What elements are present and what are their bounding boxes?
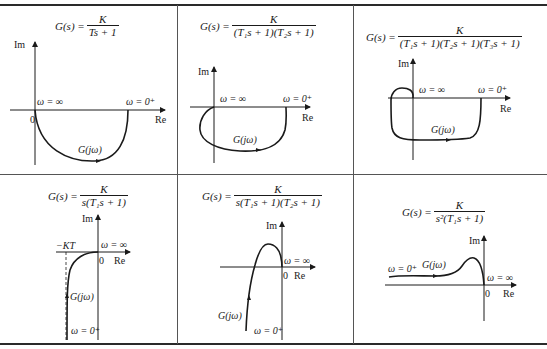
origin-label: 0	[283, 270, 288, 281]
im-label: Im	[469, 235, 480, 246]
nyquist-plot-3: Im Re ω = ∞ ω = 0⁺ G(jω)	[388, 58, 512, 160]
origin-label: 0	[485, 288, 490, 299]
re-label: Re	[302, 112, 314, 123]
im-label: Im	[398, 58, 409, 69]
omega-infinity-label: ω = ∞	[220, 93, 246, 104]
origin-label: 0	[99, 255, 104, 266]
direction-arrow-icon	[247, 295, 251, 300]
direction-arrow-icon	[256, 148, 261, 152]
curve-label: G(jω)	[78, 144, 102, 156]
re-label: Re	[114, 255, 126, 266]
omega-zero-label: ω = 0⁺	[71, 325, 100, 336]
curve-label: G(jω)	[431, 124, 455, 136]
omega-infinity-label: ω = ∞	[487, 272, 513, 283]
curve-label: G(jω)	[70, 291, 94, 303]
curve-label: G(jω)	[422, 259, 446, 271]
nyquist-plot-5: Im Re 0 ω = ∞ ω = 0⁺ G(jω)	[218, 220, 315, 340]
direction-arrow-icon	[446, 138, 451, 142]
omega-infinity-label: ω = ∞	[284, 255, 310, 266]
omega-infinity-label: ω = ∞	[419, 84, 445, 95]
direction-arrow-icon	[433, 274, 438, 278]
im-label: Im	[82, 213, 93, 224]
nyquist-plots: Im Re 0 ω = ∞ ω = 0⁺ G(jω) Im Re ω = ∞ ω…	[0, 0, 547, 349]
re-label: Re	[155, 114, 167, 125]
re-label: Re	[500, 103, 512, 114]
im-label: Im	[198, 66, 209, 77]
nyquist-plot-table: G(s) = K Ts + 1 G(s) = K (T₁s + 1)(T₂s +…	[0, 0, 547, 349]
omega-zero-label: ω = 0⁺	[254, 325, 283, 336]
omega-zero-label: ω = 0⁺	[283, 93, 312, 104]
im-label: Im	[14, 39, 25, 50]
nyquist-plot-1: Im Re 0 ω = ∞ ω = 0⁺ G(jω)	[10, 39, 167, 165]
re-label: Re	[294, 270, 306, 281]
curve-label: G(jω)	[218, 310, 242, 322]
nyquist-plot-6: Im Re 0 ω = ∞ ω = 0⁺ G(jω)	[385, 235, 516, 321]
omega-infinity-label: ω = ∞	[37, 96, 63, 107]
curve-label: G(jω)	[233, 134, 257, 146]
omega-zero-label: ω = 0⁺	[126, 96, 155, 107]
omega-infinity-label: ω = ∞	[101, 239, 127, 250]
im-label: Im	[266, 220, 277, 231]
nyquist-plot-2: Im Re ω = ∞ ω = 0⁺ G(jω)	[190, 66, 314, 163]
omega-zero-label: ω = 0⁺	[388, 263, 417, 274]
asymptote-label: −KT	[56, 240, 76, 251]
re-label: Re	[503, 288, 515, 299]
omega-zero-label: ω = 0⁺	[478, 84, 507, 95]
nyquist-plot-4: Im Re 0 −KT ω = ∞ ω = 0⁺ G(jω)	[56, 213, 130, 340]
origin-label: 0	[30, 114, 35, 125]
nyquist-curve	[246, 244, 282, 331]
